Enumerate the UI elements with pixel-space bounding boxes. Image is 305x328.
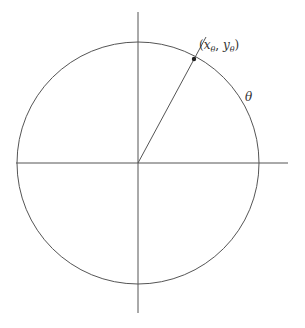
angle-label: θ (245, 90, 253, 104)
radius-ray (138, 37, 206, 163)
point-marker (192, 57, 196, 61)
unit-circle-diagram: (xθ, yθ) θ (0, 0, 305, 328)
point-label: (xθ, yθ) (199, 38, 239, 54)
